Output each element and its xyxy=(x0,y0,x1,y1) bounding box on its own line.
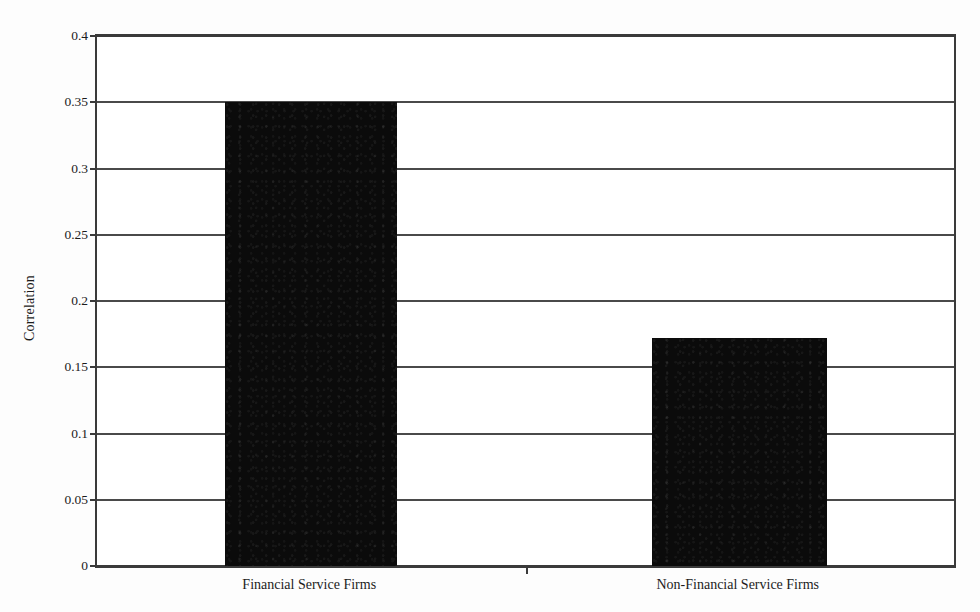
x-axis-label-category-1: Non-Financial Service Firms xyxy=(524,578,953,592)
y-tick-label-0.35: 0.35 xyxy=(64,96,88,110)
y-tick-label-0.2: 0.2 xyxy=(71,294,88,308)
y-tick-mark-0.05 xyxy=(90,499,97,501)
y-axis-title-container: Correlation xyxy=(0,0,60,612)
y-tick-label-0.1: 0.1 xyxy=(71,427,88,441)
y-axis-title: Correlation xyxy=(22,208,38,408)
y-tick-label-0.05: 0.05 xyxy=(64,493,88,507)
y-tick-label-0.15: 0.15 xyxy=(64,361,88,375)
y-tick-label-0.4: 0.4 xyxy=(71,29,88,43)
bar-1 xyxy=(652,338,827,566)
y-tick-mark-0.25 xyxy=(90,234,97,236)
y-tick-mark-0.35 xyxy=(90,101,97,103)
y-tick-label-0.25: 0.25 xyxy=(64,228,88,242)
y-tick-mark-0.2 xyxy=(90,300,97,302)
y-tick-label-0: 0 xyxy=(81,559,88,573)
y-tick-mark-0.15 xyxy=(90,366,97,368)
y-tick-mark-0.3 xyxy=(90,168,97,170)
y-tick-mark-0 xyxy=(90,565,97,567)
chart-figure: Correlation 00.050.10.150.20.250.30.350.… xyxy=(0,0,980,612)
x-axis-label-category-0: Financial Service Firms xyxy=(95,578,524,592)
bar-0 xyxy=(225,102,397,566)
x-tick-mark-1 xyxy=(526,566,528,574)
y-tick-mark-0.4 xyxy=(90,35,97,37)
y-tick-mark-0.1 xyxy=(90,433,97,435)
plot-area: 00.050.10.150.20.250.30.350.4 xyxy=(95,34,956,568)
y-tick-label-0.3: 0.3 xyxy=(71,162,88,176)
gridline-0.4 xyxy=(97,35,954,37)
